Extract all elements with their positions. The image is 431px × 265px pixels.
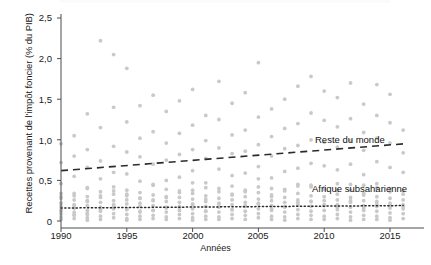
scatter-point: [283, 215, 287, 219]
scatter-point: [125, 202, 129, 206]
scatter-point: [349, 196, 353, 200]
scatter-point: [335, 168, 339, 172]
scatter-point: [125, 198, 129, 202]
scatter-point: [112, 144, 116, 148]
scatter-point: [388, 92, 392, 96]
scatter-point: [230, 213, 234, 217]
scatter-point: [362, 217, 366, 221]
scatter-point: [112, 203, 116, 207]
scatter-point: [112, 216, 116, 220]
scatter-point: [191, 188, 195, 192]
scatter-point: [178, 213, 182, 217]
scatter-point: [257, 61, 261, 65]
scatter-point: [309, 75, 313, 79]
scatter-point: [335, 217, 339, 221]
scatter-point: [375, 217, 379, 221]
scatter-point: [388, 201, 392, 205]
scatter-point: [72, 134, 76, 138]
scatter-point: [309, 209, 313, 213]
scatter-point: [230, 192, 234, 196]
scatter-point: [204, 194, 208, 198]
scatter-point: [349, 218, 353, 222]
scatter-point: [270, 209, 274, 213]
scatter-point: [112, 192, 116, 196]
scatter-point: [178, 175, 182, 179]
scatter-point: [335, 208, 339, 212]
scatter-point: [138, 191, 142, 195]
scatter-point: [388, 206, 392, 210]
scatter-point: [230, 174, 234, 178]
scatter-point: [296, 198, 300, 202]
scatter-point: [138, 155, 142, 159]
scatter-point: [322, 89, 326, 93]
scatter-point: [349, 210, 353, 214]
scatter-point: [72, 210, 76, 214]
scatter-point: [164, 158, 168, 162]
scatter-point: [85, 218, 89, 222]
scatter-point: [217, 79, 221, 83]
scatter-point: [309, 217, 313, 221]
scatter-point: [296, 183, 300, 187]
scatter-point: [283, 218, 287, 222]
scatter-point: [309, 200, 313, 204]
scatter-point: [401, 128, 405, 132]
scatter-point: [401, 212, 405, 216]
scatter-point: [257, 143, 261, 147]
scatter-point: [164, 141, 168, 145]
scatter-point: [296, 217, 300, 221]
scatter-point: [164, 109, 168, 113]
scatter-point: [243, 217, 247, 221]
scatter-point: [230, 152, 234, 156]
scatter-point: [257, 165, 261, 169]
scatter-point: [270, 193, 274, 197]
scatter-point: [72, 174, 76, 178]
scatter-point: [191, 88, 195, 92]
scatter-point: [125, 218, 129, 222]
scatter-point: [178, 131, 182, 135]
scatter-point: [178, 217, 182, 221]
scatter-point: [296, 122, 300, 126]
scatter-point: [204, 139, 208, 143]
scatter-point: [191, 212, 195, 216]
scatter-point: [375, 114, 379, 118]
scatter-point: [151, 217, 155, 221]
scatter-point: [138, 217, 142, 221]
scatter-point: [85, 112, 89, 116]
scatter-point: [283, 210, 287, 214]
scatter-point: [151, 209, 155, 213]
scatter-point: [375, 160, 379, 164]
scatter-point: [151, 93, 155, 97]
scatter-point: [164, 217, 168, 221]
scatter-point: [72, 203, 76, 207]
scatter-point: [401, 217, 405, 221]
scatter-point: [85, 195, 89, 199]
scatter-point: [283, 170, 287, 174]
scatter-point: [335, 125, 339, 129]
scatter-point: [257, 177, 261, 181]
scatter-point: [85, 204, 89, 208]
scatter-point: [257, 115, 261, 119]
scatter-point: [283, 127, 287, 131]
scatter-point: [335, 213, 339, 217]
scatter-point: [309, 213, 313, 217]
scatter-point: [151, 183, 155, 187]
scatter-point: [204, 209, 208, 213]
scatter-point: [270, 135, 274, 139]
scatter-point: [99, 177, 103, 181]
scatter-point: [125, 66, 129, 70]
scatter-point: [99, 200, 103, 204]
scatter-point: [375, 200, 379, 204]
figure-root: Recettes provenant de l'impôt foncier (%…: [0, 0, 431, 265]
scatter-point: [138, 136, 142, 140]
scatter-point: [217, 201, 221, 205]
scatter-point: [151, 213, 155, 217]
scatter-point: [178, 196, 182, 200]
scatter-point: [270, 107, 274, 111]
scatter-point: [138, 214, 142, 218]
scatter-point: [164, 195, 168, 199]
scatter-point: [125, 188, 129, 192]
scatter-point: [72, 217, 76, 221]
scatter-point: [217, 118, 221, 122]
scatter-point: [230, 184, 234, 188]
scatter-point: [151, 162, 155, 166]
